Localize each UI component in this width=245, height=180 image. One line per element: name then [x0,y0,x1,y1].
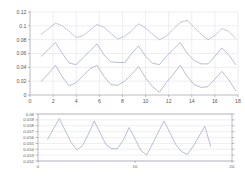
x-tick-label: 20 [230,164,235,169]
y-tick-label: 0.12 [16,9,26,15]
y-tick-label: 0 [24,92,27,98]
y-tick-label: 0.055 [23,141,34,146]
data-series-series-sawtooth [48,119,211,155]
y-tick-label: 0.08 [16,37,26,43]
y-tick-label: 0.02 [16,78,26,84]
upper-chart-canvas: 00.020.040.060.080.10.12024681012141618 [0,0,245,108]
y-tick-label: 0.06 [26,112,35,117]
x-tick-label: 2 [52,98,55,104]
data-series-series-lower-solid [42,65,236,92]
x-tick-label: 16 [212,98,218,104]
lower-chart-panel: 0.0520.0530.0540.0550.0560.0570.0580.059… [0,108,245,180]
y-tick-label: 0.052 [23,159,34,164]
x-tick-label: 6 [98,98,101,104]
y-tick-label: 0.058 [23,123,34,128]
y-tick-label: 0.1 [19,23,26,29]
upper-chart-panel: 00.020.040.060.080.10.12024681012141618 [0,0,245,108]
y-tick-label: 0.04 [16,64,26,70]
y-tick-label: 0.059 [23,117,34,122]
y-tick-label: 0.056 [23,135,34,140]
y-tick-label: 0.053 [23,153,34,158]
y-tick-label: 0.054 [23,147,34,152]
x-tick-label: 18 [235,98,241,104]
x-tick-label: 8 [121,98,124,104]
y-tick-label: 0.057 [23,129,34,134]
x-tick-label: 12 [166,98,172,104]
x-tick-label: 0 [37,164,40,169]
y-tick-label: 0.06 [16,50,26,56]
data-series-series-upper-dashed [42,20,236,39]
x-tick-label: 14 [189,98,195,104]
x-tick-label: 10 [143,98,149,104]
x-tick-label: 0 [29,98,32,104]
figure-root: 00.020.040.060.080.10.12024681012141618 … [0,0,245,180]
x-tick-label: 10 [133,164,138,169]
x-tick-label: 4 [75,98,78,104]
lower-chart-canvas: 0.0520.0530.0540.0550.0560.0570.0580.059… [0,108,245,180]
